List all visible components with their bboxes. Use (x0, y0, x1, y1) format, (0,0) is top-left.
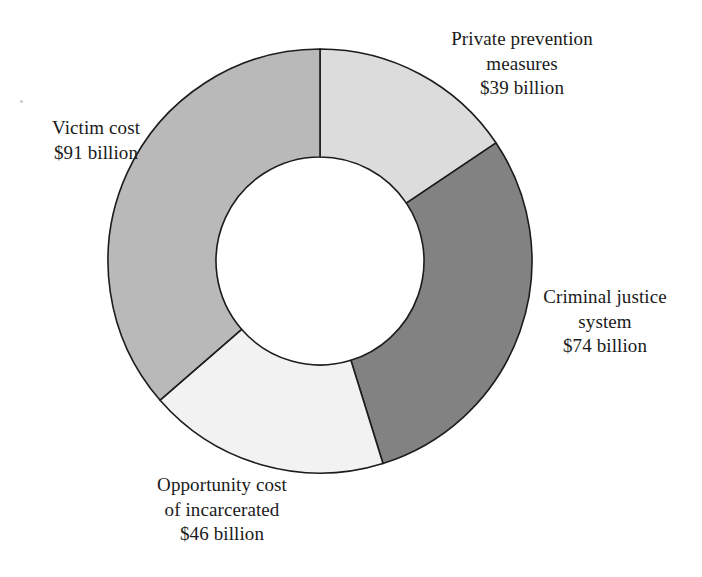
slice-label-line-1: Criminal justice (516, 285, 694, 310)
donut-chart-figure: Private prevention measures $39 billionC… (0, 0, 702, 577)
slice-label-private-prevention: Private prevention measures $39 billion (408, 27, 636, 101)
slice-label-value: $74 billion (516, 334, 694, 359)
slice-label-victim-cost: Victim cost $91 billion (12, 116, 180, 165)
slice-label-line-1: Opportunity cost (108, 473, 336, 498)
scan-artifact-speck (20, 100, 23, 103)
slice-label-criminal-justice: Criminal justice system $74 billion (516, 285, 694, 359)
donut-slice-group: Private prevention measures $39 billionC… (108, 49, 532, 473)
slice-label-value: $91 billion (12, 141, 180, 166)
donut-slice-victim-cost[interactable]: Victim cost $91 billion (108, 49, 320, 400)
slice-label-line-1: Private prevention (408, 27, 636, 52)
slice-label-value: $39 billion (408, 76, 636, 101)
donut-slice-criminal-justice-system[interactable]: Criminal justice system $74 billion (351, 143, 532, 463)
slice-label-line-2: of incarcerated (108, 498, 336, 523)
slice-label-value: $46 billion (108, 522, 336, 547)
slice-label-line-2: system (516, 310, 694, 335)
slice-label-line-1: Victim cost (12, 116, 180, 141)
slice-label-line-2: measures (408, 52, 636, 77)
slice-label-opportunity-cost: Opportunity cost of incarcerated $46 bil… (108, 473, 336, 547)
